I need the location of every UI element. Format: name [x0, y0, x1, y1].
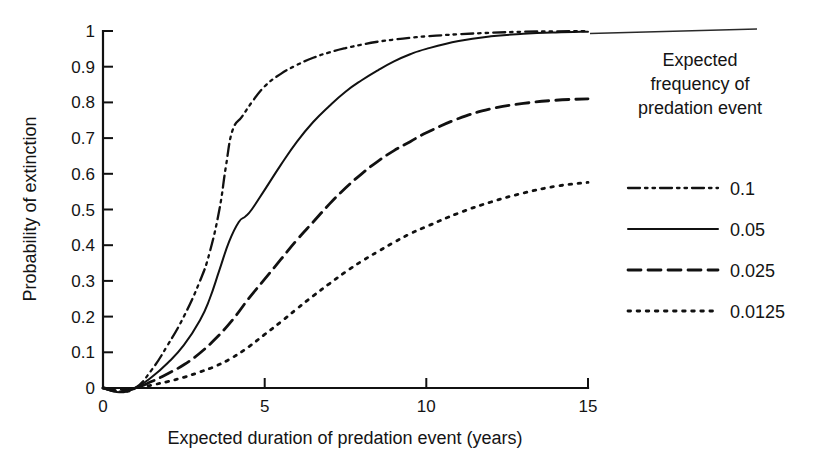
y-tick-label: 0.4 [71, 236, 95, 255]
y-axis-title: Probability of extinction [20, 116, 40, 301]
legend-title-line: predation event [638, 98, 762, 118]
extinction-probability-chart: 1 0.9 0.8 0.7 0.6 0.5 0.4 0.3 0.2 0.1 0 … [0, 0, 813, 464]
figure-container: 1 0.9 0.8 0.7 0.6 0.5 0.4 0.3 0.2 0.1 0 … [0, 0, 813, 464]
legend-title-line: frequency of [650, 74, 750, 94]
x-tick-label: 15 [579, 397, 598, 416]
y-tick-label: 0.5 [71, 201, 95, 220]
y-axis-ticks [103, 31, 113, 388]
series-line-0-05 [103, 32, 588, 393]
series-line-0-1 [103, 31, 588, 392]
series-layer [103, 31, 588, 392]
legend-entry-0-1[interactable]: 0.1 [628, 179, 755, 199]
x-axis-title: Expected duration of predation event (ye… [167, 428, 522, 448]
x-tick-label: 0 [98, 397, 107, 416]
legend-label: 0.0125 [730, 302, 785, 322]
y-tick-label: 0.2 [71, 308, 95, 327]
y-tick-label: 0.6 [71, 165, 95, 184]
legend: Expected frequency of predation event 0.… [628, 50, 785, 322]
y-tick-label: 0.7 [71, 129, 95, 148]
legend-title-line: Expected [662, 50, 737, 70]
legend-label: 0.025 [730, 261, 775, 281]
legend-label: 0.05 [730, 220, 765, 240]
axis-spines [103, 31, 588, 388]
x-tick-label: 10 [417, 397, 436, 416]
legend-entry-0-05[interactable]: 0.05 [628, 220, 765, 240]
y-tick-labels: 1 0.9 0.8 0.7 0.6 0.5 0.4 0.3 0.2 0.1 0 [71, 22, 95, 398]
scan-artifact-rule [590, 29, 757, 34]
legend-entry-0-0125[interactable]: 0.0125 [628, 302, 785, 322]
y-tick-label: 0.8 [71, 93, 95, 112]
x-tick-labels: 0 5 10 15 [98, 397, 597, 416]
x-tick-label: 5 [260, 397, 269, 416]
series-line-0-025 [103, 99, 588, 391]
series-line-0-0125 [103, 182, 588, 389]
y-tick-label: 0.1 [71, 343, 95, 362]
y-tick-label: 0.9 [71, 58, 95, 77]
y-tick-label: 0.3 [71, 272, 95, 291]
legend-entries[interactable]: 0.10.050.0250.0125 [628, 179, 785, 322]
y-tick-label: 1 [86, 22, 95, 41]
y-tick-label: 0 [86, 379, 95, 398]
legend-label: 0.1 [730, 179, 755, 199]
legend-entry-0-025[interactable]: 0.025 [628, 261, 775, 281]
